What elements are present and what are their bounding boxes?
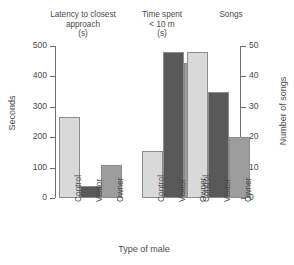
panel-title-songs: Songs <box>196 10 266 20</box>
left-axis-spine <box>55 46 56 198</box>
category-label-control-panel3: Control <box>202 175 211 202</box>
x-axis-label: Type of male <box>47 244 241 254</box>
bar-chart-figure: Latency to closest approach (s) Time spe… <box>0 0 294 265</box>
left-tick-label-300: 300 <box>21 102 47 111</box>
right-tick-label-20: 20 <box>249 132 273 141</box>
left-tick-label-500: 500 <box>21 41 47 50</box>
right-tick-label-40: 40 <box>249 71 273 80</box>
category-label-control-panel1: Control <box>74 175 83 202</box>
left-tick-label-400: 400 <box>21 71 47 80</box>
right-tick-30 <box>241 107 246 108</box>
right-tick-50 <box>241 46 246 47</box>
category-label-visitor-panel3: Visitor <box>223 179 232 202</box>
y-axis-label-left: Seconds <box>7 77 17 149</box>
left-tick-400 <box>50 76 55 77</box>
right-tick-label-30: 30 <box>249 102 273 111</box>
bar-visitor-panel2 <box>163 52 184 198</box>
category-label-visitor-panel2: Visitor <box>178 179 187 202</box>
category-label-owner-panel1: Owner <box>116 177 125 202</box>
left-tick-500 <box>50 46 55 47</box>
category-label-owner-panel3: Owner <box>244 177 253 202</box>
right-tick-label-50: 50 <box>249 41 273 50</box>
left-tick-label-0: 0 <box>21 193 47 202</box>
left-tick-300 <box>50 107 55 108</box>
panel-title-time: Time spent < 10 m (s) <box>128 10 196 39</box>
category-label-control-panel2: Control <box>157 175 166 202</box>
left-tick-200 <box>50 137 55 138</box>
panel-title-latency: Latency to closest approach (s) <box>36 10 130 39</box>
right-tick-label-10: 10 <box>249 163 273 172</box>
left-tick-0 <box>50 198 55 199</box>
right-tick-40 <box>241 76 246 77</box>
y-axis-label-right: Number of songs <box>278 56 288 166</box>
left-tick-label-100: 100 <box>21 163 47 172</box>
left-tick-label-200: 200 <box>21 132 47 141</box>
left-tick-100 <box>50 168 55 169</box>
category-label-visitor-panel1: Visitor <box>95 179 104 202</box>
